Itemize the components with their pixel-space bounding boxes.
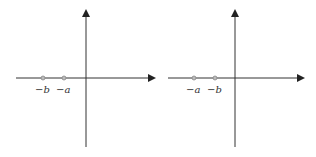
right-axes: −a −b — [168, 11, 303, 147]
right-label-neg-b: −b — [207, 84, 222, 95]
left-label-neg-b: −b — [35, 84, 50, 95]
left-label-neg-a: −a — [56, 84, 70, 95]
right-point-neg-a — [192, 76, 196, 80]
left-point-neg-b — [41, 76, 45, 80]
diagram-canvas: −b −a −a −b — [0, 0, 316, 157]
right-label-neg-a: −a — [186, 84, 200, 95]
left-axes: −b −a — [16, 11, 154, 147]
right-point-neg-b — [213, 76, 217, 80]
left-point-neg-a — [62, 76, 66, 80]
